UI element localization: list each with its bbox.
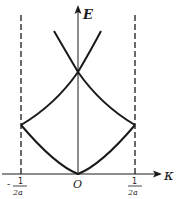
third-band-left-branch: [54, 31, 78, 72]
e-axis-label: E: [82, 7, 94, 22]
right-tick-denominator: 2a: [127, 188, 138, 197]
left-tick-denominator: 2a: [12, 188, 23, 197]
origin-label: O: [73, 178, 82, 191]
third-band-right-branch: [78, 31, 101, 72]
k-axis-label: κ: [163, 166, 174, 184]
left-tick-numerator: 1: [18, 177, 23, 186]
band-structure-diagram: E κ O - 1 2a 1 2a: [0, 0, 180, 199]
left-tick-sign: -: [7, 179, 10, 189]
right-tick-numerator: 1: [132, 177, 137, 186]
